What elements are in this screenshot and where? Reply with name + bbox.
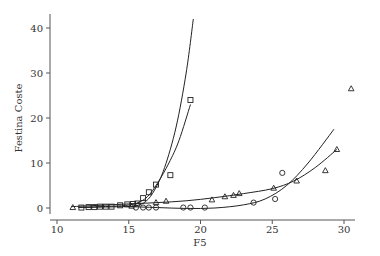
y-axis-label: Festina Coste <box>13 83 24 152</box>
circle-marker <box>280 170 285 175</box>
axes <box>50 14 355 220</box>
circle-marker <box>188 205 193 210</box>
scatter-chart: 010203040 1015202530 F5 Festina Coste <box>0 0 380 256</box>
circle-marker <box>181 205 186 210</box>
squares-fit-curve <box>79 105 191 208</box>
x-tick-label: 10 <box>51 224 64 235</box>
square-marker <box>168 173 173 178</box>
y-tick-label: 20 <box>30 113 43 124</box>
circle-marker <box>202 205 207 210</box>
data-markers <box>70 86 354 210</box>
square-marker <box>188 98 193 103</box>
x-tick-label: 30 <box>338 224 351 235</box>
y-tick-label: 30 <box>30 68 43 79</box>
x-tick-label: 25 <box>266 224 279 235</box>
y-tick-label: 40 <box>30 23 43 34</box>
fit-curves <box>71 19 336 209</box>
x-tick-label: 15 <box>122 224 135 235</box>
x-tick-label: 20 <box>194 224 207 235</box>
triangle-marker <box>334 147 340 152</box>
triangle-marker <box>348 86 354 91</box>
triangle-marker <box>323 168 329 173</box>
y-tick-label: 0 <box>37 203 43 214</box>
x-axis-label: F5 <box>193 237 206 248</box>
square-marker <box>146 190 151 195</box>
squares-fit-curve <box>79 19 194 208</box>
y-tick-label: 10 <box>30 158 43 169</box>
circle-marker <box>273 196 278 201</box>
x-ticks: 1015202530 <box>51 220 351 235</box>
triangle-marker <box>236 191 242 196</box>
y-ticks: 010203040 <box>30 23 50 214</box>
